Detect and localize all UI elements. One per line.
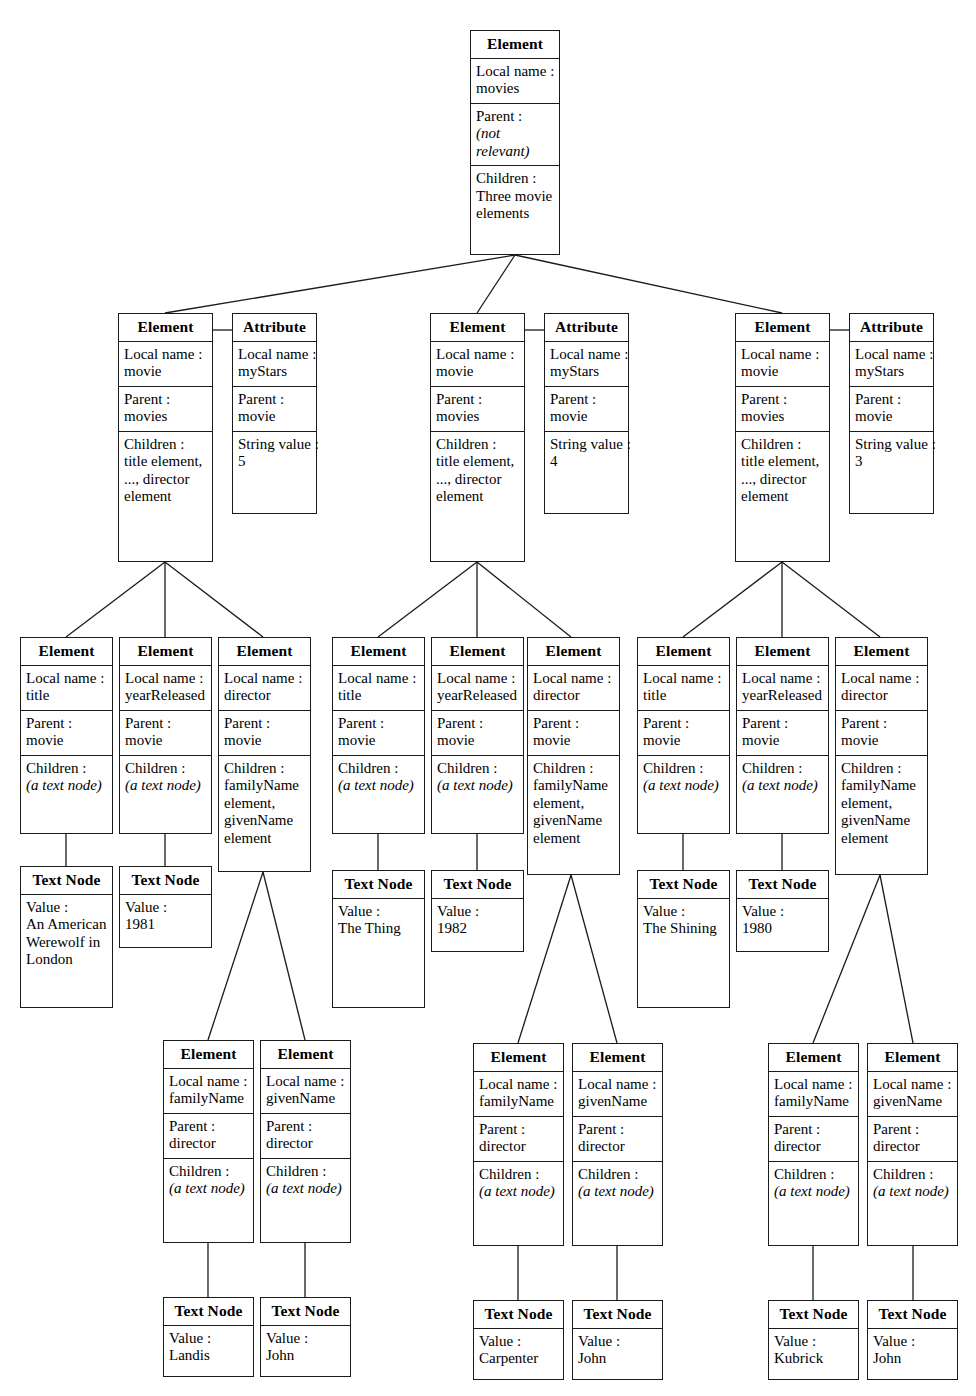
node-text-year-1[interactable]: Text Node Value : 1981 [119,866,212,948]
field-parent: Parent : movie [836,711,927,756]
field-local-name: Local name : myStars [233,342,316,387]
node-director-1[interactable]: Element Local name : director Parent : m… [218,637,311,872]
node-title-3[interactable]: Element Local name : title Parent : movi… [637,637,730,834]
field-label: Local name : [855,346,929,364]
node-director-3[interactable]: Element Local name : director Parent : m… [835,637,928,875]
field-label: Parent : [224,715,306,733]
field-parent: Parent : movies [736,387,829,432]
field-label: Value : [479,1333,559,1351]
field-label: Children : [436,436,520,454]
field-label: Parent : [238,391,312,409]
field-local-name: Local name : movie [431,342,524,387]
field-label: Local name : [774,1076,854,1094]
edge-movie1-title [66,562,165,637]
node-movie-3[interactable]: Element Local name : movie Parent : movi… [735,313,830,562]
node-attribute-1[interactable]: Attribute Local name : myStars Parent : … [232,313,317,514]
field-value: 1981 [125,916,207,934]
edge-movie3-title [683,562,782,637]
field-value-row: Value : The Shining [638,899,729,1008]
node-title-1[interactable]: Element Local name : title Parent : movi… [20,637,113,834]
node-text-year-2[interactable]: Text Node Value : 1982 [431,870,524,952]
node-text-given-1[interactable]: Text Node Value : John [260,1297,351,1377]
field-label: Value : [873,1333,953,1351]
node-root-movies[interactable]: Element Local name : movies Parent : (no… [470,30,560,255]
node-kind-label: Text Node [868,1301,957,1329]
field-label: Parent : [533,715,615,733]
field-children: Children : (a text node) [261,1159,350,1242]
field-label: Local name : [124,346,208,364]
field-local-name: Local name : familyName [769,1072,858,1117]
field-label: Parent : [479,1121,559,1139]
node-given-name-1[interactable]: Element Local name : givenName Parent : … [260,1040,351,1243]
field-value: (not relevant) [476,125,555,160]
field-label: Parent : [873,1121,953,1139]
field-label: Parent : [774,1121,854,1139]
field-children: Children : (a text node) [164,1159,253,1242]
field-label: Local name : [873,1076,953,1094]
node-movie-2[interactable]: Element Local name : movie Parent : movi… [430,313,525,562]
node-text-title-3[interactable]: Text Node Value : The Shining [637,870,730,1008]
field-label: Children : [841,760,923,778]
edge-movie3-director [782,562,880,637]
field-children: Children : familyName element, givenName… [836,756,927,874]
node-text-title-2[interactable]: Text Node Value : The Thing [332,870,425,1008]
node-text-given-3[interactable]: Text Node Value : John [867,1300,958,1380]
node-kind-label: Element [638,638,729,666]
field-children: Children : familyName element, givenName… [528,756,619,874]
field-value: movie [741,363,825,381]
node-year-1[interactable]: Element Local name : yearReleased Parent… [119,637,212,834]
field-label: Local name : [436,346,520,364]
node-text-family-3[interactable]: Text Node Value : Kubrick [768,1300,859,1380]
node-kind-label: Element [769,1044,858,1072]
node-text-year-3[interactable]: Text Node Value : 1980 [736,870,829,952]
field-label: Parent : [643,715,725,733]
field-label: Value : [338,903,420,921]
field-value: director [169,1135,249,1153]
field-value: movie [643,732,725,750]
field-value: director [774,1138,854,1156]
field-label: Local name : [224,670,306,688]
node-text-family-1[interactable]: Text Node Value : Landis [163,1297,254,1377]
node-given-name-2[interactable]: Element Local name : givenName Parent : … [572,1043,663,1246]
field-label: Children : [476,170,555,188]
field-local-name: Local name : myStars [545,342,628,387]
field-value-row: Value : 1982 [432,899,523,952]
field-value: 1982 [437,920,519,938]
field-value: myStars [855,363,929,381]
field-value: movies [476,80,555,98]
field-label: Children : [124,436,208,454]
field-value: movie [742,732,824,750]
node-director-2[interactable]: Element Local name : director Parent : m… [527,637,620,875]
field-local-name: Local name : givenName [868,1072,957,1117]
field-parent: Parent : (not relevant) [471,104,559,167]
node-attribute-3[interactable]: Attribute Local name : myStars Parent : … [849,313,934,514]
node-text-given-2[interactable]: Text Node Value : John [572,1300,663,1380]
field-local-name: Local name : yearReleased [432,666,523,711]
node-kind-label: Text Node [120,867,211,895]
field-value: John [873,1350,953,1368]
field-local-name: Local name : director [219,666,310,711]
field-label: Local name : [476,63,555,81]
field-label: Value : [266,1330,346,1348]
node-text-family-2[interactable]: Text Node Value : Carpenter [473,1300,564,1380]
node-title-2[interactable]: Element Local name : title Parent : movi… [332,637,425,834]
field-value: Landis [169,1347,249,1365]
node-year-3[interactable]: Element Local name : yearReleased Parent… [736,637,829,834]
node-family-name-3[interactable]: Element Local name : familyName Parent :… [768,1043,859,1246]
node-kind-label: Element [120,638,211,666]
node-attribute-2[interactable]: Attribute Local name : myStars Parent : … [544,313,629,514]
field-label: Children : [774,1166,854,1184]
node-family-name-2[interactable]: Element Local name : familyName Parent :… [473,1043,564,1246]
field-value-row: Value : 1980 [737,899,828,952]
field-parent: Parent : movie [850,387,933,432]
node-family-name-1[interactable]: Element Local name : familyName Parent :… [163,1040,254,1243]
node-year-2[interactable]: Element Local name : yearReleased Parent… [431,637,524,834]
field-value: The Shining [643,920,725,938]
edge-movie1-director [165,562,263,637]
node-text-title-1[interactable]: Text Node Value : An American Werewolf i… [20,866,113,1008]
node-given-name-3[interactable]: Element Local name : givenName Parent : … [867,1043,958,1246]
node-movie-1[interactable]: Element Local name : movie Parent : movi… [118,313,213,562]
field-label: Parent : [266,1118,346,1136]
field-value: 1980 [742,920,824,938]
field-value: movies [124,408,208,426]
